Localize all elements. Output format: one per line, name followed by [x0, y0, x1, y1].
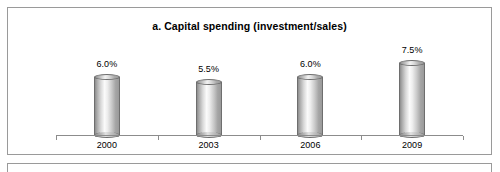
chart-title: a. Capital spending (investment/sales): [8, 20, 491, 32]
bar-top-cap: [399, 60, 425, 66]
bar[interactable]: 6.0%: [94, 77, 120, 135]
x-axis-tick-labels: 2000200320062009: [56, 140, 463, 154]
bar-series: 6.0%5.5%6.0%7.5%: [56, 40, 463, 135]
x-axis-tick-label: 2009: [361, 140, 463, 150]
x-axis-tick-label: 2003: [158, 140, 260, 150]
bar-top-cap: [297, 74, 323, 80]
bar-body: [399, 63, 425, 135]
bar-top-cap: [196, 79, 222, 85]
bar[interactable]: 7.5%: [399, 63, 425, 135]
bar-slot: 7.5%: [361, 40, 463, 135]
bar-body: [94, 77, 120, 135]
x-axis-tick: [463, 136, 464, 140]
bar-value-label: 5.5%: [198, 64, 219, 74]
bar-body: [297, 77, 323, 135]
bar-slot: 6.0%: [260, 40, 362, 135]
bar-value-label: 7.5%: [402, 45, 423, 55]
bar-body: [196, 82, 222, 135]
bar[interactable]: 6.0%: [297, 77, 323, 135]
bar-slot: 6.0%: [56, 40, 158, 135]
plot-area: 6.0%5.5%6.0%7.5%: [56, 40, 463, 136]
bar[interactable]: 5.5%: [196, 82, 222, 135]
adjacent-panel-top-edge: [7, 163, 492, 172]
bar-top-cap: [94, 74, 120, 80]
x-axis-tick-label: 2000: [56, 140, 158, 150]
chart-panel: a. Capital spending (investment/sales) 6…: [7, 7, 492, 155]
bar-value-label: 6.0%: [300, 59, 321, 69]
x-axis-tick-label: 2006: [260, 140, 362, 150]
bar-slot: 5.5%: [158, 40, 260, 135]
bar-value-label: 6.0%: [97, 59, 118, 69]
